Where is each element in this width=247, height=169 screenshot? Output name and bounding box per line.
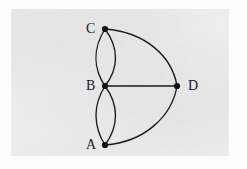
edge-C-B-right <box>105 29 116 86</box>
vertex-label-C: C <box>86 22 96 36</box>
vertex-label-D: D <box>188 79 198 93</box>
vertex-label-B: B <box>86 79 96 93</box>
graph-drawing <box>0 0 247 169</box>
edge-C-B-left <box>96 29 105 86</box>
vertex-dot-B <box>102 83 108 89</box>
graph-edges <box>96 29 177 145</box>
vertex-label-A: A <box>86 138 96 152</box>
vertex-dot-A <box>102 142 108 148</box>
edge-B-A-right <box>105 86 116 145</box>
figure-root: C B A D <box>0 0 247 169</box>
edge-B-A-left <box>96 86 105 145</box>
vertex-dot-D <box>174 83 180 89</box>
vertex-dot-C <box>102 26 108 32</box>
